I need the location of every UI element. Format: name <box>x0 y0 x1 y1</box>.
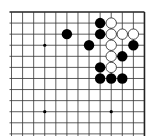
star-point <box>43 110 46 113</box>
black-stone[interactable] <box>84 40 94 50</box>
black-stone[interactable] <box>106 73 116 83</box>
black-stone[interactable] <box>117 73 127 83</box>
white-stone[interactable] <box>106 29 116 39</box>
white-stone[interactable] <box>106 18 116 28</box>
black-stone[interactable] <box>128 40 138 50</box>
black-stone[interactable] <box>95 29 105 39</box>
white-stone[interactable] <box>106 62 116 72</box>
black-stone[interactable] <box>117 51 127 61</box>
star-point <box>43 44 46 47</box>
go-board[interactable] <box>0 0 156 140</box>
black-stone[interactable] <box>95 18 105 28</box>
white-stone[interactable] <box>106 51 116 61</box>
white-stone[interactable] <box>128 29 138 39</box>
white-stone[interactable] <box>117 29 127 39</box>
black-stone[interactable] <box>62 29 72 39</box>
star-point <box>110 110 113 113</box>
white-stone[interactable] <box>106 40 116 50</box>
black-stone[interactable] <box>95 62 105 72</box>
black-stone[interactable] <box>95 73 105 83</box>
go-board-grid[interactable] <box>0 0 156 140</box>
